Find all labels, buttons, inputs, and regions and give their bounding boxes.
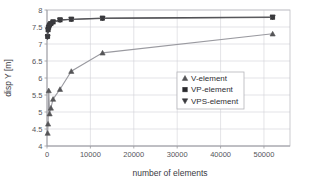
legend-label-1: VP-element (191, 85, 234, 94)
line-chart: 01000020000300004000050000 44.555.566.57… (0, 0, 310, 180)
x-tick-label: 30000 (167, 150, 188, 159)
legend-label-0: V-element (191, 74, 228, 83)
y-tick-label: 4 (38, 142, 42, 151)
x-tick-label: 40000 (210, 150, 231, 159)
y-tick-label: 6.5 (32, 57, 42, 66)
square-icon (183, 87, 187, 91)
x-tick-label: 50000 (254, 150, 275, 159)
grid-lines (47, 10, 290, 146)
y-tick-label: 7 (38, 40, 42, 49)
y-tick-label: 7.5 (32, 23, 42, 32)
series-vps-element (45, 15, 275, 39)
y-axis-ticks: 44.555.566.577.58 (32, 6, 47, 151)
legend-label-2: VPS-element (191, 97, 239, 106)
y-tick-label: 4.5 (32, 125, 42, 134)
data-point (57, 87, 62, 92)
chart-legend: V-elementVP-elementVPS-element (177, 72, 244, 109)
x-axis-ticks: 01000020000300004000050000 (45, 146, 274, 159)
x-tick-label: 20000 (123, 150, 144, 159)
y-axis-title: disp Y [m] (3, 59, 13, 96)
data-point (69, 69, 74, 74)
y-tick-label: 6 (38, 74, 42, 83)
y-tick-label: 8 (38, 6, 42, 15)
data-point (45, 121, 50, 126)
y-tick-label: 5.5 (32, 91, 42, 100)
x-axis-title: number of elements (132, 168, 207, 178)
y-tick-label: 5 (38, 108, 42, 117)
chart-container: 01000020000300004000050000 44.555.566.57… (0, 0, 310, 180)
data-point (45, 131, 50, 136)
x-tick-label: 0 (45, 150, 49, 159)
x-tick-label: 10000 (80, 150, 101, 159)
